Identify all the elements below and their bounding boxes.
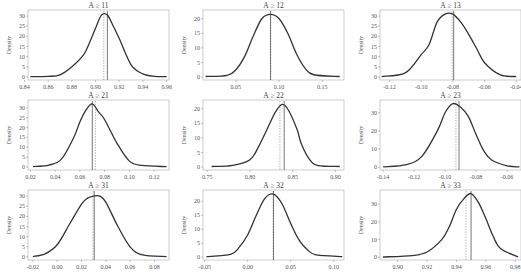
panel-title: A ≥ 33 — [440, 181, 461, 190]
y-tick-label: 5 — [22, 154, 25, 160]
density-curve — [206, 14, 340, 76]
y-tick-label: 20 — [19, 213, 25, 219]
x-tick-label: -0.10 — [439, 174, 452, 180]
x-tick-label: 0.90 — [330, 174, 341, 180]
x-tick-label: 0.85 — [287, 174, 298, 180]
x-tick-label: 0.75 — [202, 174, 213, 180]
x-tick-label: -0.12 — [408, 174, 421, 180]
x-tick-label: 0.12 — [149, 174, 160, 180]
y-tick-label: 10 — [194, 226, 200, 232]
x-tick-label: -0.04 — [510, 84, 521, 90]
density-curve — [383, 193, 518, 257]
y-tick-label: 0 — [197, 74, 200, 80]
y-tick-label: 25 — [19, 23, 25, 29]
panel-title: A ≥ 21 — [88, 91, 109, 100]
x-tick-label: 0.05 — [231, 84, 242, 90]
density-curve — [212, 104, 340, 166]
y-tick-label: 10 — [194, 45, 200, 51]
plot-frame — [380, 10, 521, 80]
y-tick-label: 20 — [19, 33, 25, 39]
y-axis-label: Density — [6, 36, 12, 55]
density-curve — [206, 194, 342, 257]
y-tick-label: 15 — [19, 224, 25, 230]
panel-title: A ≥ 32 — [263, 181, 284, 190]
y-tick-label: 5 — [197, 240, 200, 246]
y-tick-label: 20 — [371, 219, 377, 225]
y-tick-label: 0 — [22, 164, 25, 170]
density-curve — [30, 14, 166, 77]
y-tick-label: 10 — [371, 146, 377, 152]
panel-2: A ≥ 12Density0.050.100.1505101520 — [181, 1, 344, 91]
x-tick-label: 0.10 — [124, 174, 135, 180]
y-tick-label: 30 — [19, 13, 25, 19]
x-tick-label: 0.06 — [75, 174, 86, 180]
x-tick-label: -0.06 — [478, 84, 491, 90]
x-tick-label: 0.92 — [422, 264, 433, 270]
y-tick-label: 0 — [374, 254, 377, 260]
y-tick-label: 20 — [371, 33, 377, 39]
y-tick-label: 15 — [19, 134, 25, 140]
panel-7: A ≥ 31Density-0.020.000.020.040.060.0805… — [6, 181, 169, 271]
x-tick-label: 0.00 — [52, 264, 63, 270]
panel-title: A ≥ 12 — [263, 1, 284, 10]
y-tick-label: 5 — [22, 64, 25, 70]
y-tick-label: 30 — [19, 105, 25, 111]
y-tick-label: 25 — [371, 23, 377, 29]
plot-frame — [203, 100, 344, 170]
x-tick-label: 0.90 — [90, 84, 101, 90]
panel-9: A ≥ 33Density0.900.920.940.960.980102030 — [358, 181, 521, 271]
y-tick-label: 15 — [194, 120, 200, 126]
x-tick-label: 0.00 — [242, 264, 253, 270]
x-tick-label: -0.12 — [383, 84, 396, 90]
y-tick-label: 10 — [19, 234, 25, 240]
x-tick-label: 0.10 — [328, 264, 339, 270]
y-axis-label: Density — [358, 36, 364, 55]
x-tick-label: 0.80 — [245, 174, 256, 180]
plot-frame — [28, 190, 169, 260]
x-tick-label: 0.88 — [67, 84, 78, 90]
y-axis-label: Density — [181, 126, 187, 145]
y-tick-label: 20 — [19, 125, 25, 131]
y-axis-label: Density — [6, 216, 12, 235]
y-tick-label: 15 — [19, 44, 25, 50]
plot-frame — [28, 100, 169, 170]
panel-title: A ≥ 31 — [88, 181, 109, 190]
panel-title: A ≥ 23 — [440, 91, 461, 100]
y-tick-label: 15 — [194, 212, 200, 218]
y-tick-label: 0 — [22, 74, 25, 80]
density-curve — [33, 196, 167, 257]
y-tick-label: 0 — [22, 254, 25, 260]
x-tick-label: -0.06 — [501, 174, 514, 180]
x-tick-label: 0.84 — [19, 84, 30, 90]
x-tick-label: 0.96 — [161, 84, 172, 90]
y-tick-label: 0 — [374, 74, 377, 80]
y-tick-label: 20 — [194, 16, 200, 22]
y-tick-label: 30 — [371, 201, 377, 207]
y-tick-label: 30 — [19, 193, 25, 199]
x-tick-label: -0.14 — [377, 174, 390, 180]
density-figure: A ≥ 11Density0.840.860.880.900.920.940.9… — [0, 0, 521, 275]
x-tick-label: 0.15 — [317, 84, 328, 90]
panel-3: A ≥ 13Density-0.12-0.10-0.08-0.06-0.0405… — [358, 1, 521, 91]
x-tick-label: 0.02 — [76, 264, 87, 270]
density-curve — [382, 13, 517, 77]
y-tick-label: 20 — [371, 128, 377, 134]
x-tick-label: 0.08 — [149, 264, 160, 270]
x-tick-label: 0.86 — [43, 84, 54, 90]
y-tick-label: 15 — [194, 30, 200, 36]
x-tick-label: 0.05 — [285, 264, 296, 270]
x-tick-label: 0.90 — [392, 264, 403, 270]
x-tick-label: 0.94 — [138, 84, 149, 90]
x-tick-label: -0.02 — [27, 264, 40, 270]
density-curve — [383, 103, 519, 166]
x-tick-label: 0.08 — [99, 174, 110, 180]
x-tick-label: 0.10 — [274, 84, 285, 90]
y-tick-label: 30 — [371, 13, 377, 19]
x-tick-label: 0.94 — [451, 264, 462, 270]
y-tick-label: 0 — [374, 164, 377, 170]
y-axis-label: Density — [358, 216, 364, 235]
y-tick-label: 10 — [194, 135, 200, 141]
plot-frame — [203, 10, 344, 80]
y-tick-label: 5 — [374, 64, 377, 70]
y-tick-label: 5 — [22, 244, 25, 250]
